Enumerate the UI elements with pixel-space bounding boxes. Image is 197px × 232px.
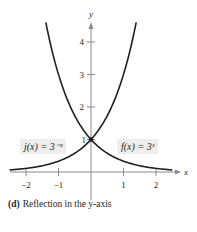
y-tick-label: 3 (80, 70, 85, 80)
y-axis-label: y (88, 9, 93, 19)
x-tick-label: −2 (21, 180, 31, 190)
caption-text: Reflection in the y-axis (23, 199, 112, 209)
figure-caption: (d)Reflection in the y-axis (8, 199, 112, 209)
x-tick-label: 1 (121, 180, 126, 190)
x-axis-arrow-icon (175, 170, 181, 175)
x-tick-label: −1 (54, 180, 64, 190)
label-j: j(x) = 3⁻ˣ (20, 139, 66, 154)
label-f-text: f(x) = 3ˣ (121, 141, 154, 152)
x-tick-label: 2 (154, 180, 159, 190)
label-f: f(x) = 3ˣ (117, 139, 158, 154)
y-axis-arrow-icon (89, 22, 94, 29)
intersection-point (89, 137, 94, 142)
y-tick-label: 2 (80, 102, 85, 112)
x-axis-label: x (183, 167, 188, 177)
graph: xy−2−1121234 (0, 0, 197, 232)
y-tick-label: 1 (82, 135, 87, 145)
caption-letter: (d) (8, 199, 20, 209)
y-tick-label: 4 (80, 37, 85, 47)
label-j-text: j(x) = 3⁻ˣ (24, 141, 62, 152)
